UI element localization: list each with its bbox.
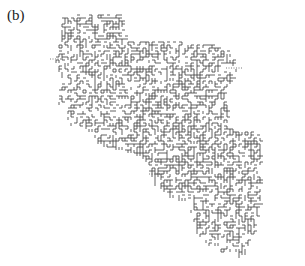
lattice-cluster-diagram: [0, 0, 305, 266]
cluster-segments: [56, 15, 263, 258]
